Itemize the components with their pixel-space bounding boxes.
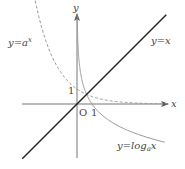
x-tick-label: 1 [91, 107, 97, 118]
function-graph: y x O 1 1 y=x y=ax y=logax [0, 0, 185, 169]
y-tick-label: 1 [68, 85, 74, 96]
logarithm-label-tail: x [151, 140, 157, 151]
x-axis-label: x [171, 98, 177, 109]
identity-label: y=x [150, 35, 171, 46]
exponential-label-sup: x [28, 36, 32, 44]
logarithm-label: y=logax [116, 140, 157, 153]
exponential-curve [34, 0, 167, 104]
exponential-label-main: y=a [7, 37, 28, 48]
exponential-label: y=ax [7, 36, 32, 48]
logarithm-curve [77, 14, 164, 142]
identity-line [22, 15, 166, 159]
origin-label: O [79, 107, 87, 118]
y-axis-label: y [72, 2, 79, 13]
logarithm-label-main: y=log [116, 140, 147, 151]
